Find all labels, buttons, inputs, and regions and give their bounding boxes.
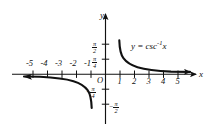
y-axis-label: y (100, 11, 104, 20)
y-tick-label-neg-pi-over-4: − π 4 (87, 83, 96, 99)
x-axis-label: x (199, 70, 203, 79)
equation-variable: x (162, 41, 166, 51)
origin-label: O (97, 76, 103, 85)
y-tick-label-pi-over-2: π 2 (92, 38, 97, 54)
x-tick-label--5: -5 (26, 59, 33, 68)
x-tick-label--2: -2 (70, 59, 77, 68)
x-tick-label--1: -1 (84, 59, 91, 68)
equation-text: y = csc (131, 41, 157, 51)
x-tick-label-1: 1 (118, 77, 122, 86)
x-tick-label-5: 5 (176, 77, 180, 86)
y-tick-denominator: 4 (90, 92, 95, 99)
graph-figure: y x O -5 -4 -3 -2 -1 1 2 3 4 5 π 2 π 4 −… (0, 0, 215, 132)
x-tick-label-4: 4 (161, 77, 165, 86)
x-tick-label-2: 2 (132, 77, 136, 86)
x-tick-label--4: -4 (41, 59, 48, 68)
x-tick-label-3: 3 (147, 77, 151, 86)
curve-left-branch (24, 77, 92, 109)
x-tick-label--3: -3 (55, 59, 62, 68)
y-tick-denominator: 4 (92, 62, 97, 69)
y-tick-denominator: 2 (113, 107, 118, 114)
y-tick-label-pi-over-4: π 4 (92, 53, 97, 69)
y-tick-numerator: π (90, 86, 95, 92)
y-tick-numerator: π (113, 101, 118, 107)
equation-annotation: y = csc-1x (131, 40, 166, 51)
y-tick-label-neg-pi-over-2: − π 2 (110, 98, 119, 114)
